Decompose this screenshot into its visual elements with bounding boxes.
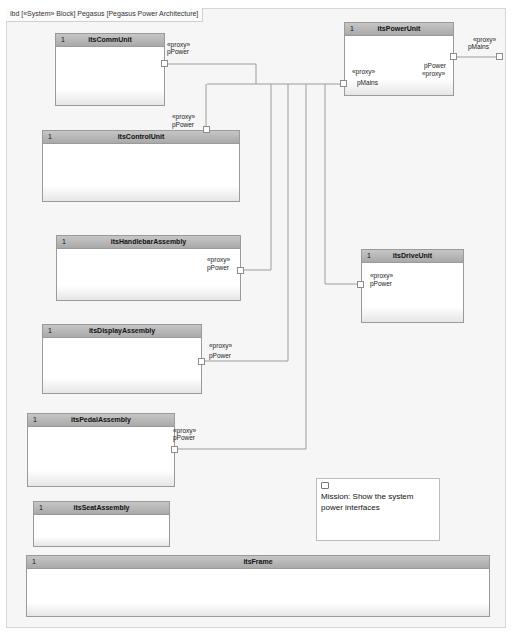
port-name: pPower [167,48,189,56]
port-pedal-ppower[interactable] [171,446,178,453]
block-name: itsFrame [27,556,489,568]
port-name: pPower [207,264,229,272]
block-its-frame[interactable]: 1 itsFrame [26,555,490,617]
block-its-pedal-assembly[interactable]: 1 itsPedalAssembly [27,413,175,487]
connector-comm-power[interactable] [168,64,342,84]
block-header: 1 itsFrame [27,556,489,569]
port-name: pPower [370,280,392,288]
port-stereotype: «proxy» [207,256,230,264]
block-its-display-assembly[interactable]: 1 itsDisplayAssembly [42,324,202,394]
connector-handlebar[interactable] [242,84,271,270]
block-name: itsSeatAssembly [34,502,169,514]
block-header: 1 itsSeatAssembly [34,502,169,515]
block-its-seat-assembly[interactable]: 1 itsSeatAssembly [33,501,170,547]
block-name: itsDisplayAssembly [43,325,201,337]
block-name: itsDriveUnit [362,250,463,262]
port-power-ppower[interactable] [450,53,457,60]
block-its-control-unit[interactable]: 1 itsControlUnit [42,130,240,202]
port-name: pPower [424,62,446,70]
mission-note[interactable]: Mission: Show the system power interface… [316,478,440,541]
port-display-ppower[interactable] [198,358,205,365]
port-stereotype: «proxy» [370,272,393,280]
port-drive-ppower[interactable] [357,281,364,288]
port-handlebar-ppower[interactable] [237,267,244,274]
connector-display[interactable] [205,84,288,361]
port-name: pPower [172,121,194,129]
block-header: 1 itsHandlebarAssembly [57,236,240,249]
block-header: 1 itsDisplayAssembly [43,325,201,338]
port-stereotype: «proxy» [209,342,232,350]
block-header: 1 itsCommUnit [56,34,164,47]
port-system-pmains[interactable] [496,53,503,60]
block-name: itsPedalAssembly [28,414,174,426]
port-name: pMains [468,43,489,51]
port-stereotype: «proxy» [422,70,445,78]
connector-drive[interactable] [325,84,358,284]
block-its-comm-unit[interactable]: 1 itsCommUnit [55,33,165,106]
block-header: 1 itsPowerUnit [345,23,453,36]
port-name: pPower [209,352,231,360]
block-name: itsCommUnit [56,34,164,46]
port-name: pMains [357,79,378,87]
port-control-ppower[interactable] [203,126,210,133]
block-header: 1 itsDriveUnit [362,250,463,263]
block-name: itsPowerUnit [345,23,453,35]
block-name: itsHandlebarAssembly [57,236,240,248]
port-comm-ppower[interactable] [161,60,168,67]
port-stereotype: «proxy» [172,113,195,121]
note-icon [321,482,329,489]
port-stereotype: «proxy» [352,68,375,76]
port-name: pPower [173,434,195,442]
block-header: 1 itsPedalAssembly [28,414,174,427]
port-power-pmains[interactable] [340,80,347,87]
note-text: Mission: Show the system power interface… [321,491,435,513]
